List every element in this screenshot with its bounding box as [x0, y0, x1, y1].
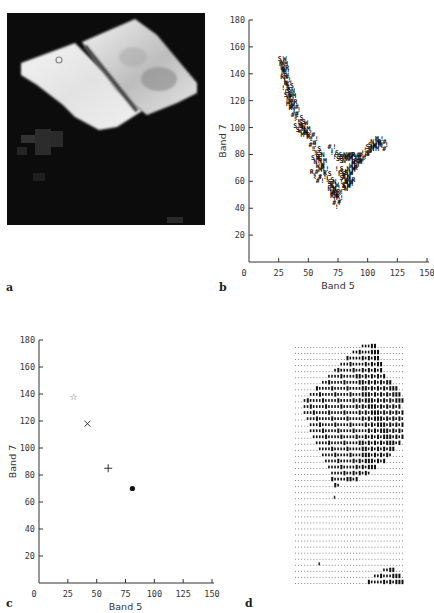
map-cell-dot — [341, 498, 342, 499]
map-cell-filled — [356, 393, 358, 396]
map-cell-dot — [298, 444, 299, 445]
map-cell-dot — [310, 347, 311, 348]
map-cell-dot — [313, 474, 314, 475]
map-cell-filled — [350, 387, 352, 390]
map-cell-dot — [368, 498, 369, 499]
map-cell-dot — [381, 516, 382, 517]
map-cell-filled — [362, 351, 364, 354]
map-cell-filled — [304, 411, 306, 414]
map-cell-filled — [389, 405, 391, 408]
map-cell-dot — [359, 486, 360, 487]
map-cell-dot — [350, 571, 351, 572]
map-cell-dot — [298, 474, 299, 475]
x-tick-label: 25 — [274, 268, 284, 278]
map-cell-filled — [350, 405, 352, 408]
map-cell-filled — [362, 416, 364, 420]
map-cell-dot — [384, 474, 385, 475]
map-cell-filled — [389, 580, 391, 584]
map-cell-filled — [389, 422, 391, 426]
map-cell-dot — [310, 516, 311, 517]
map-cell-dot — [319, 474, 320, 475]
map-cell-filled — [353, 368, 355, 372]
map-cell-dot — [378, 541, 379, 542]
map-cell-dot — [338, 535, 339, 536]
map-cell-dot — [335, 529, 336, 530]
map-cell-filled — [383, 441, 385, 444]
map-cell-dot — [353, 547, 354, 548]
map-cell-filled — [346, 416, 348, 420]
map-cell-filled — [322, 417, 324, 420]
map-cell-dot — [301, 395, 302, 396]
map-cell-filled — [368, 368, 370, 372]
map-cell-dot — [323, 529, 324, 530]
map-cell-filled — [340, 369, 342, 372]
map-cell-dot — [390, 377, 391, 378]
map-cell-dot — [396, 462, 397, 463]
map-cell-dot — [298, 365, 299, 366]
map-cell-dot — [310, 571, 311, 572]
map-cell-filled — [371, 435, 373, 439]
data-points: SNWNWMWMRMR!R!#!#!#!!!!S!SSSSNSNWNWMWMRM… — [278, 55, 389, 211]
map-cell-dot — [295, 486, 296, 487]
map-cell-dot — [359, 565, 360, 566]
map-cell-filled — [334, 478, 336, 481]
map-cell-dot — [319, 377, 320, 378]
y-tick-label: 20 — [235, 230, 245, 240]
map-cell-dot — [353, 498, 354, 499]
map-cell-filled — [365, 417, 367, 420]
map-cell-filled — [383, 459, 385, 463]
map-cell-dot — [298, 547, 299, 548]
panel-label-a: a — [6, 281, 13, 294]
map-cell-dot — [387, 541, 388, 542]
map-cell-dot — [329, 492, 330, 493]
map-cell-dot — [396, 571, 397, 572]
map-cell-filled — [316, 405, 318, 408]
map-cell-filled — [371, 441, 373, 444]
map-cell-dot — [307, 474, 308, 475]
map-cell-filled — [322, 393, 324, 396]
map-cell-dot — [326, 547, 327, 548]
map-cell-filled — [395, 441, 397, 444]
map-cell-filled — [350, 381, 352, 384]
map-cell-dot — [301, 377, 302, 378]
map-cell-dot — [384, 553, 385, 554]
map-cell-dot — [387, 468, 388, 469]
map-cell-dot — [301, 541, 302, 542]
map-cell-dot — [301, 498, 302, 499]
centroid-dot-marker — [130, 486, 135, 491]
map-cell-dot — [329, 365, 330, 366]
map-cell-dot — [310, 377, 311, 378]
map-cell-filled — [319, 387, 321, 390]
map-cell-dot — [381, 541, 382, 542]
map-cell-dot — [316, 559, 317, 560]
map-cell-dot — [384, 547, 385, 548]
map-cell-dot — [368, 504, 369, 505]
map-cell-filled — [337, 454, 339, 457]
map-cell-filled — [365, 386, 367, 390]
map-cell-dot — [332, 504, 333, 505]
map-cell-dot — [387, 553, 388, 554]
map-cell-dot — [399, 492, 400, 493]
map-cell-dot — [399, 498, 400, 499]
map-cell-filled — [346, 454, 348, 457]
map-cell-dot — [298, 450, 299, 451]
map-cell-filled — [362, 363, 364, 366]
map-cell-dot — [316, 565, 317, 566]
map-cell-filled — [353, 357, 355, 360]
map-cell-filled — [395, 405, 397, 408]
map-cell-dot — [387, 492, 388, 493]
map-cell-dot — [350, 529, 351, 530]
map-cell-dot — [378, 529, 379, 530]
map-cell-filled — [380, 447, 382, 450]
map-cell-filled — [374, 392, 376, 396]
map-cell-dot — [319, 486, 320, 487]
map-cell-dot — [362, 504, 363, 505]
map-cell-dot — [341, 577, 342, 578]
map-cell-dot — [402, 529, 403, 530]
map-cell-filled — [365, 441, 367, 444]
map-cell-filled — [359, 380, 361, 384]
map-cell-dot — [295, 577, 296, 578]
map-cell-filled — [386, 399, 388, 402]
map-cell-dot — [323, 371, 324, 372]
map-cell-filled — [365, 453, 367, 457]
